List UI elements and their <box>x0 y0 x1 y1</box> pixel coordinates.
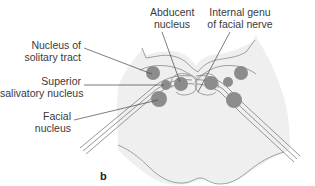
label-line: nucleus <box>150 18 194 30</box>
label-line: nucleus <box>0 122 71 134</box>
label-line: Internal genu <box>202 6 278 18</box>
left-abducent-nucleus <box>174 77 188 91</box>
label-line: of facial nerve <box>202 18 278 30</box>
right-solitary-nucleus <box>234 66 248 80</box>
label-line: Facial <box>0 110 71 122</box>
panel-letter: b <box>100 170 107 182</box>
label-solitary-tract: Nucleus of solitary tract <box>0 39 81 63</box>
label-superior-salivatory: Superior salivatory nucleus <box>0 75 81 99</box>
right-abducent-nucleus <box>204 76 218 90</box>
label-line: salivatory nucleus <box>0 87 81 99</box>
label-abducent-nucleus: Abducent nucleus <box>150 6 194 30</box>
brainstem-outline <box>117 35 290 185</box>
left-solitary-nucleus <box>146 66 160 80</box>
right-salivatory-nucleus <box>223 77 233 87</box>
left-facial-nucleus <box>151 91 167 107</box>
right-facial-nucleus <box>226 92 242 108</box>
brainstem-cross-section-diagram: Abducent nucleus Internal genu of facial… <box>0 0 315 186</box>
label-line: Nucleus of <box>0 39 81 51</box>
label-facial-nucleus: Facial nucleus <box>0 110 71 134</box>
label-line: Abducent <box>150 6 194 18</box>
label-line: solitary tract <box>0 51 81 63</box>
label-internal-genu: Internal genu of facial nerve <box>202 6 278 30</box>
label-line: Superior <box>0 75 81 87</box>
